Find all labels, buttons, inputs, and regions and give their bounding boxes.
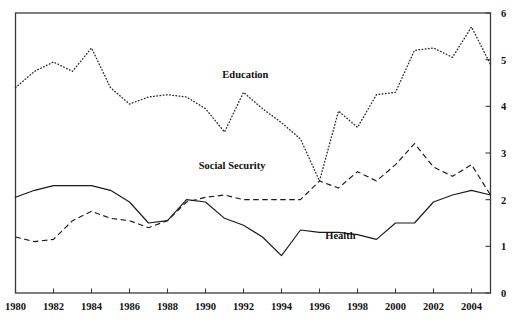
x-axis-label-1990: 1990 xyxy=(195,301,216,312)
series-label-education: Education xyxy=(222,69,268,80)
x-axis-label-1984: 1984 xyxy=(81,301,103,312)
x-axis-label-2000: 2000 xyxy=(385,301,406,312)
x-axis-label-1998: 1998 xyxy=(347,301,368,312)
x-axis-label-1982: 1982 xyxy=(43,301,64,312)
chart-figure: 1980198219841986198819901992199419961998… xyxy=(0,0,521,328)
y-axis-label-0: 0 xyxy=(501,288,506,299)
y-axis-label-6: 6 xyxy=(501,8,506,19)
y-axis-label-4: 4 xyxy=(501,101,507,112)
series-label-health: Health xyxy=(325,230,355,241)
line-chart-svg: 1980198219841986198819901992199419961998… xyxy=(0,0,521,328)
series-label-social-security: Social Security xyxy=(199,160,267,171)
y-axis-label-5: 5 xyxy=(501,55,506,66)
x-axis-label-1992: 1992 xyxy=(233,301,254,312)
y-axis-label-1: 1 xyxy=(501,241,506,252)
x-axis-label-1994: 1994 xyxy=(271,301,293,312)
x-axis-label-2004: 2004 xyxy=(461,301,483,312)
y-axis-label-3: 3 xyxy=(501,148,506,159)
y-axis-label-2: 2 xyxy=(501,195,506,206)
x-axis-label-1996: 1996 xyxy=(309,301,330,312)
x-axis-label-2002: 2002 xyxy=(423,301,444,312)
x-axis-label-1980: 1980 xyxy=(5,301,26,312)
x-axis-label-1988: 1988 xyxy=(157,301,178,312)
x-axis-label-1986: 1986 xyxy=(119,301,140,312)
